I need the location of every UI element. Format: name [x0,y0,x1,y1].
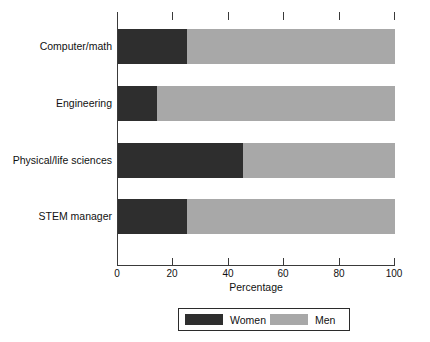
bottom-tick-20 [172,258,173,266]
top-tick-40 [228,12,229,20]
bar-segment-men [157,86,395,121]
legend-swatch-men [270,314,308,325]
bar-segment-women [118,199,187,234]
bar-row [118,29,395,64]
category-label-computer-math: Computer/math [0,40,118,52]
x-axis-line [117,265,395,266]
x-tick-label-60: 60 [277,268,288,280]
bottom-tick-80 [339,258,340,266]
category-label-engineering: Engineering [0,97,118,109]
bar-segment-women [118,86,157,121]
bar-row [118,199,395,234]
bar-segment-men [187,199,395,234]
bar-segment-women [118,143,243,178]
x-tick-label-20: 20 [166,268,177,280]
x-tick-label-40: 40 [222,268,233,280]
bottom-tick-40 [228,258,229,266]
top-tick-60 [283,12,284,20]
legend-label-women: Women [230,314,266,326]
top-tick-0 [117,12,118,20]
bottom-tick-60 [283,258,284,266]
category-label-physical-life-sciences: Physical/life sciences [0,154,118,166]
category-label-stem-manager: STEM manager [0,210,118,222]
legend-entry-men: Men [270,309,335,330]
x-tick-label-0: 0 [114,268,120,280]
top-tick-80 [339,12,340,20]
bar-segment-men [187,29,395,64]
bar-segment-men [243,143,395,178]
bar-row [118,86,395,121]
bar-segment-women [118,29,187,64]
stacked-bar-chart: Computer/math Engineering Physical/life … [0,0,430,342]
legend-entry-women: Women [185,309,266,330]
top-tick-20 [172,12,173,20]
x-axis-title: Percentage [117,281,395,293]
x-tick-label-100: 100 [386,268,403,280]
legend-swatch-women [185,314,223,325]
top-tick-100 [394,12,395,20]
chart-legend: Women Men [178,308,350,331]
legend-label-men: Men [315,314,335,326]
bar-row [118,143,395,178]
bottom-tick-100 [394,258,395,266]
bottom-tick-0 [117,258,118,266]
x-tick-label-80: 80 [333,268,344,280]
